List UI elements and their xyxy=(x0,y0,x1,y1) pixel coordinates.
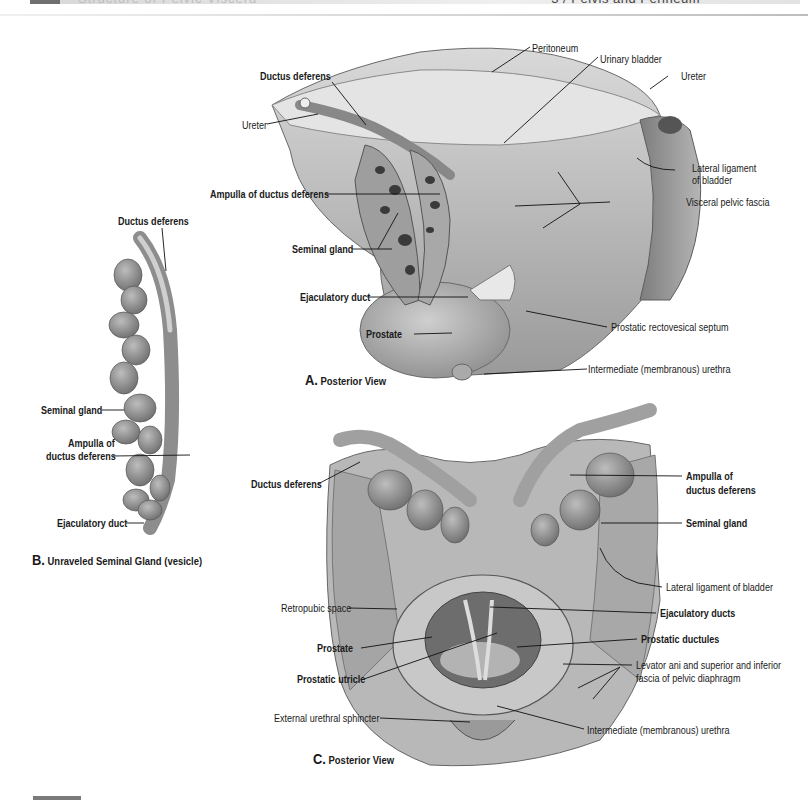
label-c-levator-ani-line1: Levator ani and superior and inferior xyxy=(636,659,781,671)
figure-b-caption-text: Unraveled Seminal Gland (vesicle) xyxy=(48,555,203,567)
label-peritoneum: Peritoneum xyxy=(532,42,578,54)
figure-c-caption: C. Posterior View xyxy=(313,750,394,767)
label-c-prostatic-ductules: Prostatic ductules xyxy=(641,633,719,645)
label-seminal-gland: Seminal gland xyxy=(292,243,353,255)
label-c-ampulla-line1: Ampulla of xyxy=(686,470,733,482)
label-c-intermediate-urethra: Intermediate (membranous) urethra xyxy=(587,724,730,736)
label-c-prostate: Prostate xyxy=(317,642,353,654)
label-b-ductus-deferens: Ductus deferens xyxy=(118,215,189,227)
label-prostate: Prostate xyxy=(366,328,402,340)
label-c-ejaculatory-ducts: Ejaculatory ducts xyxy=(660,607,735,619)
label-ductus-deferens: Ductus deferens xyxy=(260,70,331,82)
figure-a-caption: A. Posterior View xyxy=(305,371,386,388)
label-b-ampulla-line1: Ampulla of xyxy=(68,437,115,449)
label-rectovesical-septum: Prostatic rectovesical septum xyxy=(611,321,728,333)
label-ejaculatory-duct: Ejaculatory duct xyxy=(300,291,370,303)
label-c-prostatic-utricle: Prostatic utricle xyxy=(297,673,365,685)
label-c-levator-ani-line2: fascia of pelvic diaphragm xyxy=(636,672,740,684)
label-b-ejaculatory-duct: Ejaculatory duct xyxy=(57,517,127,529)
figure-b-caption: B. Unraveled Seminal Gland (vesicle) xyxy=(32,551,202,568)
label-c-ampulla-line2: ductus deferens xyxy=(686,484,756,496)
figure-c-caption-text: Posterior View xyxy=(329,754,395,766)
figure-a-caption-text: Posterior View xyxy=(321,375,387,387)
label-b-seminal-gland: Seminal gland xyxy=(41,404,102,416)
figure-a-caption-letter: A. xyxy=(305,371,318,388)
figure-b-caption-letter: B. xyxy=(32,551,45,568)
label-lateral-ligament-line2: of bladder xyxy=(692,174,732,186)
label-c-ductus-deferens: Ductus deferens xyxy=(251,478,322,490)
figure-c-caption-letter: C. xyxy=(313,750,326,767)
label-ureter-left: Ureter xyxy=(242,119,267,131)
footer-page-marker xyxy=(33,796,81,800)
label-lateral-ligament: Lateral ligament xyxy=(692,162,756,174)
label-ampulla: Ampulla of ductus deferens xyxy=(210,188,329,200)
label-c-lateral-ligament: Lateral ligament of bladder xyxy=(666,581,773,593)
label-ureter-right: Ureter xyxy=(681,70,706,82)
label-urinary-bladder: Urinary bladder xyxy=(600,53,662,65)
label-c-seminal-gland: Seminal gland xyxy=(686,517,747,529)
label-c-retropubic-space: Retropubic space xyxy=(281,602,351,614)
label-intermediate-urethra: Intermediate (membranous) urethra xyxy=(588,363,731,375)
label-b-ampulla-line2: ductus deferens xyxy=(46,450,116,462)
label-visceral-pelvic-fascia: Visceral pelvic fascia xyxy=(686,196,770,208)
figure-b-illustration xyxy=(102,228,190,528)
label-c-external-sphincter: External urethral sphincter xyxy=(274,712,379,724)
